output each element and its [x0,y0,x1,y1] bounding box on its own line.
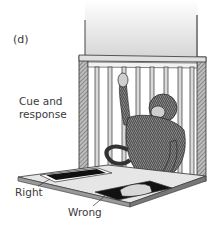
wrong-label: Wrong [68,206,102,219]
right-label: Right [15,186,43,199]
cue-label-line-1: Cue and [19,95,67,108]
cue-label-line-2: response [19,108,67,121]
back-wall [85,0,198,57]
cue-and-response-label: Cue and response [19,95,67,121]
panel-label: (d) [13,33,29,46]
